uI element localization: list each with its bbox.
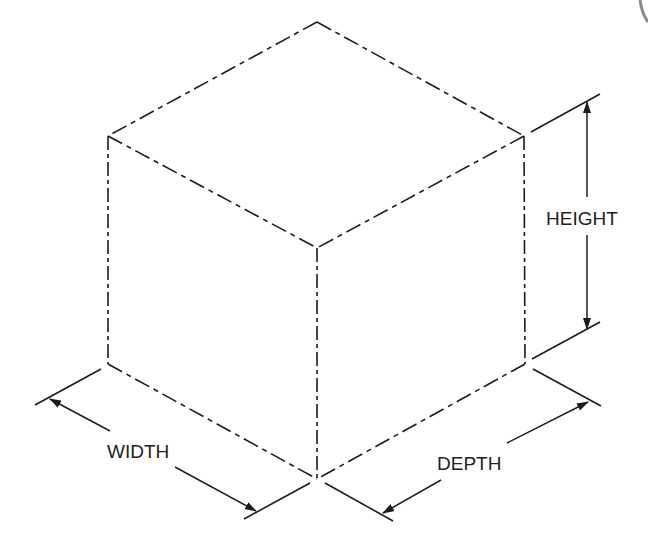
height-dimension: HEIGHT — [531, 94, 618, 359]
depth-extension-left — [325, 483, 393, 521]
height-extension-bottom — [532, 322, 600, 359]
depth-dimension: DEPTH — [325, 369, 601, 521]
cube — [108, 22, 525, 479]
width-extension-right — [244, 483, 310, 519]
width-arrow-upper — [50, 399, 110, 431]
depth-extension-right — [533, 369, 601, 406]
depth-label: DEPTH — [437, 453, 501, 474]
edge-top-right — [317, 22, 524, 136]
edge-top-left — [108, 22, 317, 136]
edge-vertical-right — [524, 136, 525, 364]
width-dimension: WIDTH — [35, 369, 310, 519]
isometric-cube-diagram: HEIGHT WIDTH DEPTH — [0, 0, 648, 545]
height-extension-top — [531, 94, 600, 132]
width-arrow-lower — [175, 467, 256, 511]
edge-top-front-left — [108, 136, 317, 248]
width-extension-left — [35, 369, 101, 405]
edge-top-front-right — [317, 136, 524, 248]
height-label: HEIGHT — [546, 208, 618, 229]
depth-arrow-lower — [383, 480, 441, 513]
page-curl-mark — [640, 0, 648, 22]
depth-arrow-upper — [507, 402, 588, 443]
width-label: WIDTH — [107, 441, 169, 462]
